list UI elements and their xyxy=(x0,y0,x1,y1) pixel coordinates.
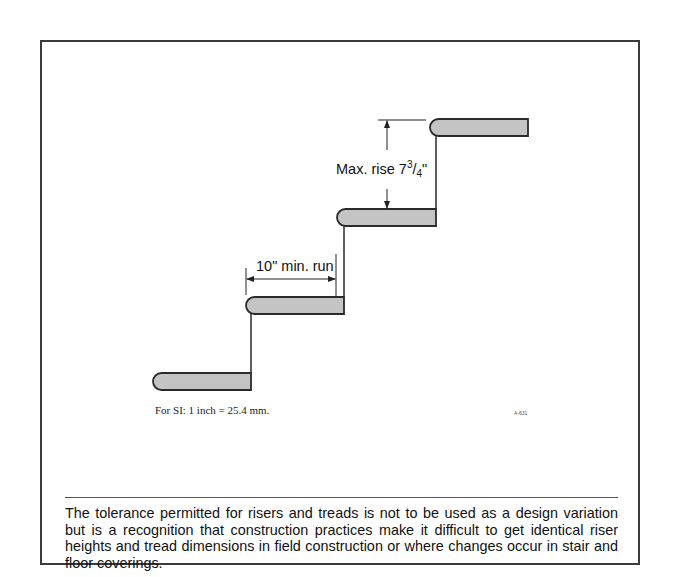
treads xyxy=(153,119,528,390)
si-conversion-note: For SI: 1 inch = 25.4 mm. xyxy=(155,404,269,416)
min-run-label: 10" min. run xyxy=(256,258,334,274)
stair-diagram: Max. rise 73/4" 10" min. run xyxy=(0,0,676,577)
max-rise-label: Max. rise 73/4" xyxy=(336,159,427,179)
tread-2 xyxy=(246,297,344,314)
tread-1 xyxy=(153,373,251,390)
figure-id: A-631 xyxy=(514,410,527,416)
tread-4 xyxy=(430,119,528,136)
caption-text: The tolerance permitted for risers and t… xyxy=(65,505,618,571)
divider xyxy=(65,497,618,498)
tread-3 xyxy=(337,209,436,226)
